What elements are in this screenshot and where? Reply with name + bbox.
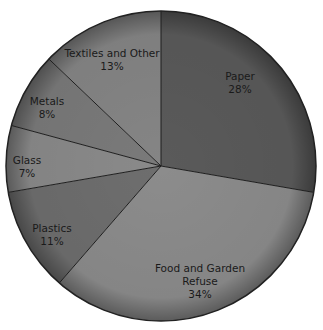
pie-chart: Paper28%Food and GardenRefuse34%Plastics…: [0, 0, 323, 330]
slice-label: Paper28%: [225, 70, 255, 95]
